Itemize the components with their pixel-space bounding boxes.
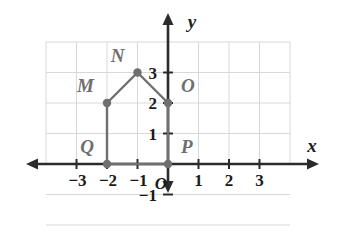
y-tick-label: 2 (149, 94, 158, 113)
x-tick-label: 2 (225, 171, 234, 190)
vertex-point-m (103, 99, 111, 107)
vertex-point-n (133, 68, 141, 76)
y-axis-label: y (186, 11, 197, 32)
vertex-label-m: M (76, 75, 95, 96)
vertex-point-q (103, 160, 111, 168)
origin-label: O (155, 174, 167, 193)
coordinate-plane-figure: −3−2−1123−1123 MNOPQ x y O (0, 0, 342, 252)
x-tick-label: 3 (255, 171, 264, 190)
vertex-label-q: Q (80, 136, 94, 157)
coordinate-plane-svg: −3−2−1123−1123 MNOPQ x y O (0, 0, 342, 252)
x-tick-label: −2 (99, 171, 117, 190)
vertex-point-o (164, 99, 172, 107)
vertex-label-n: N (110, 45, 126, 66)
x-axis-label: x (306, 135, 317, 156)
vertex-point-p (164, 160, 172, 168)
vertex-label-p: P (180, 136, 193, 157)
y-tick-label: 1 (149, 125, 158, 144)
vertex-label-o: O (181, 75, 195, 96)
y-tick-label: 3 (149, 64, 158, 83)
x-tick-label: −3 (68, 171, 86, 190)
figure-background (0, 0, 342, 252)
x-tick-label: 1 (194, 171, 203, 190)
